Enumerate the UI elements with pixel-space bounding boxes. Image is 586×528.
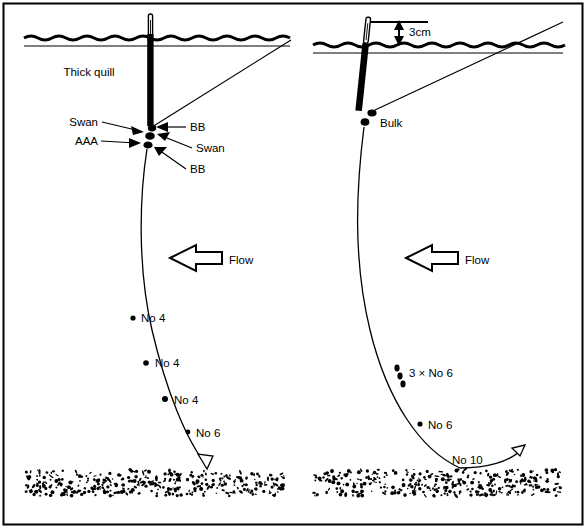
left-shot-label-swan-upper: Swan: [69, 116, 98, 128]
dropper-shot-3-left: [162, 396, 168, 402]
right-flow-label: Flow: [465, 254, 490, 266]
left-flow-label: Flow: [229, 254, 254, 266]
dropper-shot-1-left: [130, 315, 135, 320]
right-bulk-label: Bulk: [380, 117, 403, 129]
left-dropper-label-1: No 4: [141, 312, 166, 324]
right-depth-label: 3cm: [409, 26, 431, 38]
left-dropper-label-2: No 4: [155, 357, 180, 369]
right-dropper-label-1: 3 × No 6: [409, 367, 453, 379]
figure-border: [4, 4, 583, 525]
right-dropper-label-2: No 6: [428, 419, 452, 431]
left-float-label: Thick quill: [63, 66, 114, 78]
dropper-shot-2-left: [143, 360, 149, 366]
left-shot-label-aaa: AAA: [75, 135, 98, 147]
float-thick-quill: [147, 14, 153, 126]
dropper-shot-4-left: [186, 430, 191, 435]
dropper-shot-2-right: [417, 421, 422, 426]
left-shot-label-bb-lower: BB: [190, 163, 206, 175]
left-shot-label-swan-lower: Swan: [196, 142, 225, 154]
left-shot-label-bb-upper: BB: [190, 121, 206, 133]
figure-root: Thick quill Swan AAA BB Swan BB No 4 No …: [0, 0, 586, 528]
fishing-rig-figure: Thick quill Swan AAA BB Swan BB No 4 No …: [0, 0, 586, 528]
left-dropper-label-4: No 6: [196, 427, 220, 439]
right-dropper-label-hook: No 10: [452, 454, 483, 466]
left-dropper-label-3: No 4: [174, 394, 199, 406]
